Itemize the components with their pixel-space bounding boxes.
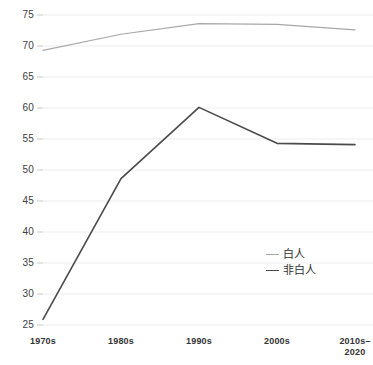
y-axis-tick-label: 40 bbox=[8, 227, 34, 237]
x-axis-tick-label: 2010s– 2020 bbox=[324, 336, 373, 358]
legend-item-bairen[interactable]: 白人 bbox=[266, 248, 316, 261]
y-axis-tick-label: 25 bbox=[8, 320, 34, 330]
x-axis-tick-label: 1970s bbox=[12, 336, 74, 347]
y-axis-tick-marks bbox=[37, 15, 43, 325]
y-axis-tick-label: 60 bbox=[8, 103, 34, 113]
x-axis-tick-label: 1980s bbox=[90, 336, 152, 347]
x-axis-tick-label: 1990s bbox=[168, 336, 230, 347]
chart-legend: 白人 非白人 bbox=[266, 248, 316, 277]
legend-label-bairen: 白人 bbox=[283, 248, 305, 261]
legend-line-swatch-bairen bbox=[266, 254, 279, 255]
y-axis-tick-label: 50 bbox=[8, 165, 34, 175]
y-axis-tick-label: 30 bbox=[8, 289, 34, 299]
y-axis-tick-label: 45 bbox=[8, 196, 34, 206]
legend-label-feibairen: 非白人 bbox=[283, 264, 316, 277]
chart-canvas bbox=[0, 0, 373, 365]
y-axis-tick-label: 55 bbox=[8, 134, 34, 144]
legend-item-feibairen[interactable]: 非白人 bbox=[266, 264, 316, 277]
legend-line-swatch-feibairen bbox=[266, 270, 279, 272]
y-axis-tick-label: 70 bbox=[8, 41, 34, 51]
y-axis-tick-label: 75 bbox=[8, 10, 34, 20]
y-axis-tick-label: 65 bbox=[8, 72, 34, 82]
gridlines bbox=[43, 15, 373, 325]
line-chart: 2530354045505560657075 1970s1980s1990s20… bbox=[0, 0, 373, 365]
x-axis-tick-label: 2000s bbox=[246, 336, 308, 347]
y-axis-tick-label: 35 bbox=[8, 258, 34, 268]
